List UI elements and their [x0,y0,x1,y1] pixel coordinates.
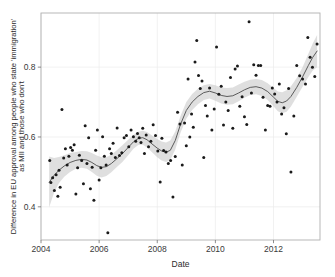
data-point [99,166,102,169]
data-point [51,176,54,179]
data-point [156,149,159,152]
data-point [167,162,170,165]
data-point [204,104,207,107]
data-point [130,128,133,131]
data-point [304,82,307,85]
data-point [48,159,51,162]
data-point [91,166,94,169]
data-point [62,156,65,159]
x-tick-label: 2012 [264,244,283,254]
data-point [174,155,177,158]
data-point [89,187,92,190]
data-point [275,101,278,104]
data-point [213,108,216,111]
data-point [96,128,99,131]
x-axis-title: Date [172,259,190,269]
data-point [74,192,77,195]
x-tick-label: 2008 [148,244,167,254]
data-point [71,149,74,152]
data-point [202,156,205,159]
data-point [164,150,167,153]
data-point [313,75,316,78]
data-point [66,163,69,166]
data-point [278,82,281,85]
data-point [101,135,104,138]
data-point [143,152,146,155]
data-point [262,96,265,99]
data-point [132,135,135,138]
data-point [234,67,237,70]
data-point [55,173,58,176]
data-point [188,135,191,138]
y-tick-label: 0.8 [24,62,36,72]
data-point [49,181,52,184]
data-point [154,134,157,137]
data-point [199,87,202,90]
data-point [147,145,150,148]
x-tick-label: 2010 [206,244,225,254]
x-tick-label: 2006 [90,244,109,254]
data-point [136,132,139,135]
data-point [224,101,227,104]
y-axis-title-line: as MII and those who don't [17,80,26,171]
data-point [152,123,155,126]
data-point [120,151,123,154]
data-point [160,137,163,140]
data-point [311,66,314,69]
data-point [248,20,251,23]
data-point [231,127,234,130]
data-point [194,60,197,63]
data-point [316,43,319,46]
data-point [76,166,79,169]
data-point [287,87,290,90]
data-point [141,127,144,130]
data-point [67,155,70,158]
data-point [309,56,312,59]
scatter-plot-svg: 20042006200820102012 0.40.60.8 Date Diff… [0,0,335,277]
data-point [58,169,61,172]
data-point [210,128,213,131]
data-point [139,141,142,144]
data-point [116,126,119,129]
data-point [264,128,267,131]
data-point [215,45,218,48]
data-point [285,132,288,135]
data-point [123,136,126,139]
data-point [190,112,193,115]
data-point [250,91,253,94]
data-point [245,123,248,126]
data-point [73,143,76,146]
data-point [94,149,97,152]
data-point [53,189,56,192]
data-point [206,115,209,118]
data-point [110,152,113,155]
data-point [106,231,109,234]
data-point [98,178,101,181]
data-point [295,64,298,67]
data-point [238,105,241,108]
data-point [178,123,181,126]
data-point [208,87,211,90]
data-point [56,195,59,198]
data-point [241,95,244,98]
data-point [187,78,190,81]
data-point [59,186,62,189]
data-point [292,115,295,118]
data-point [280,112,283,115]
data-point [185,144,188,147]
data-point [229,76,232,79]
data-point [112,142,115,145]
data-point [236,65,239,68]
data-point [255,74,258,77]
data-point [82,182,85,185]
x-tick-label: 2004 [32,244,51,254]
data-point [69,146,72,149]
data-point [217,93,220,96]
data-point [271,87,274,90]
data-point [87,136,90,139]
data-point [306,36,309,39]
data-point [298,74,301,77]
data-point [145,133,148,136]
data-point [197,74,200,77]
data-point [301,78,304,81]
